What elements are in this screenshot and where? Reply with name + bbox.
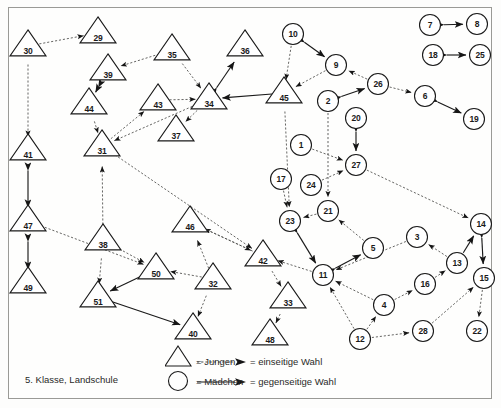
node-label-12: 12 (355, 334, 364, 344)
edge-34-37 (186, 110, 198, 121)
edge-13-14 (463, 236, 473, 253)
edge-30-29 (39, 36, 83, 44)
node-label-3: 3 (415, 232, 420, 242)
edge-10-9 (304, 42, 324, 57)
node-label-27: 27 (351, 160, 360, 170)
node-label-14: 14 (476, 219, 485, 229)
edge-51-40 (113, 302, 180, 325)
edge-43-34 (170, 99, 196, 100)
node-label-26: 26 (373, 79, 382, 89)
legend-one-sided-label: = einseitige Wahl (250, 356, 322, 367)
edge-10-45 (286, 46, 291, 80)
node-label-7: 7 (428, 20, 433, 30)
edge-6-19 (438, 102, 462, 113)
edge-1-27 (312, 149, 343, 160)
edge-45-23 (285, 112, 289, 208)
node-label-9: 9 (334, 60, 339, 70)
edge-17-23 (284, 191, 288, 208)
edge-12-28 (372, 333, 409, 338)
node-label-29: 29 (93, 33, 102, 43)
edge-50-51 (110, 276, 141, 291)
legend-mutual-label: = gegenseitige Wahl (250, 376, 336, 387)
node-label-25: 25 (475, 50, 484, 60)
node-label-30: 30 (23, 46, 32, 56)
node-label-46: 46 (185, 222, 194, 232)
node-label-37: 37 (171, 131, 180, 141)
edge-44-31 (94, 121, 98, 133)
edge-45-34 (223, 94, 273, 98)
node-label-32: 32 (208, 279, 217, 289)
node-label-2: 2 (326, 96, 331, 106)
node-label-17: 17 (276, 174, 285, 184)
diagram-caption: 5. Klasse, Landschule (25, 374, 118, 385)
edge-14-15 (482, 238, 483, 264)
edge-24-27 (322, 171, 343, 180)
node-label-33: 33 (283, 298, 292, 308)
node-label-24: 24 (306, 180, 315, 190)
legend-circle-icon (169, 372, 188, 391)
edge-39-44 (96, 87, 99, 92)
edge-4-11 (336, 281, 374, 300)
node-label-15: 15 (479, 273, 488, 283)
node-label-16: 16 (420, 279, 429, 289)
node-label-4: 4 (382, 300, 387, 310)
edge-9-45 (296, 71, 326, 87)
edge-32-40 (198, 296, 206, 317)
edge-32-50 (171, 272, 202, 278)
node-label-19: 19 (469, 114, 478, 124)
node-layer (10, 14, 495, 350)
edge-2-26 (341, 89, 364, 97)
edge-31-43 (111, 111, 144, 138)
edge-27-14 (367, 170, 468, 218)
edge-12-11 (330, 287, 354, 329)
edge-32-46 (198, 241, 209, 269)
sociogram-page: 3029394441314749385150353643343746324042… (0, 0, 501, 408)
node-label-43: 43 (153, 100, 162, 110)
node-label-10: 10 (288, 29, 297, 39)
node-label-31: 31 (97, 146, 106, 156)
node-label-11: 11 (319, 270, 328, 280)
legend-boys-label: = Jungen (196, 356, 235, 367)
legend-triangle-icon (165, 346, 191, 366)
edge-15-22 (479, 290, 483, 317)
node-label-18: 18 (428, 50, 437, 60)
edge-5-21 (339, 220, 364, 241)
node-label-20: 20 (351, 113, 360, 123)
node-label-6: 6 (423, 91, 428, 101)
node-label-42: 42 (258, 256, 267, 266)
node-label-28: 28 (418, 326, 427, 336)
node-label-13: 13 (452, 258, 461, 268)
edge-34-36 (217, 62, 235, 88)
node-label-34: 34 (204, 99, 213, 109)
node-label-41: 41 (23, 150, 32, 160)
edge-38-51 (99, 258, 101, 283)
node-label-36: 36 (240, 46, 249, 56)
edge-12-4 (367, 316, 376, 329)
edge-11-42 (278, 261, 312, 272)
edge-33-48 (276, 314, 280, 323)
edge-35-34 (182, 64, 201, 89)
legend: = Jungen = Mädchen = einseitige Wahl = g… (165, 344, 415, 392)
edge-31-42 (115, 155, 252, 249)
node-label-8: 8 (475, 19, 480, 29)
node-label-47: 47 (23, 221, 32, 231)
edge-4-16 (395, 290, 413, 299)
legend-girls-label: = Mädchen (196, 376, 243, 387)
edge-21-23 (304, 214, 317, 217)
edge-42-33 (272, 271, 281, 286)
edge-38-31 (102, 167, 103, 229)
node-label-5: 5 (371, 243, 376, 253)
edge-23-11 (297, 233, 315, 263)
legend-dashed-arrow-head (235, 358, 246, 366)
edge-26-6 (390, 87, 412, 93)
node-label-44: 44 (84, 104, 93, 114)
node-label-40: 40 (188, 329, 197, 339)
node-label-50: 50 (151, 269, 160, 279)
node-label-38: 38 (98, 240, 107, 250)
node-label-23: 23 (285, 216, 294, 226)
node-label-39: 39 (103, 70, 112, 80)
node-label-49: 49 (23, 283, 32, 293)
node-label-51: 51 (93, 297, 102, 307)
edge-16-13 (435, 271, 445, 278)
edge-28-15 (432, 287, 473, 323)
